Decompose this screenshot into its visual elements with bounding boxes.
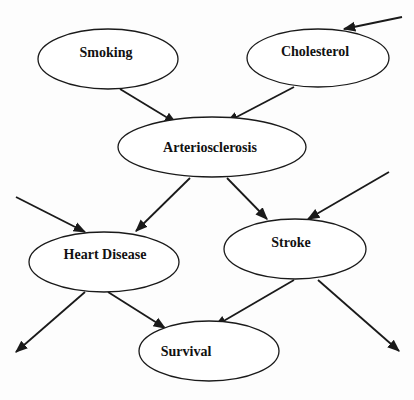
node-survival: Survival	[139, 321, 279, 381]
bayesian-network-diagram: Smoking Cholesterol Arteriosclerosis Hea…	[0, 0, 414, 400]
edge-cholesterol-to-arteriosclerosis	[227, 87, 294, 122]
node-smoking-label: Smoking	[80, 45, 133, 60]
node-arteriosclerosis: Arteriosclerosis	[118, 117, 306, 177]
edge-heart-disease-to-external	[16, 292, 85, 352]
node-smoking: Smoking	[38, 29, 178, 89]
edge-heart-disease-to-survival	[108, 292, 165, 328]
edge-external-to-stroke	[308, 172, 389, 219]
edge-stroke-to-external	[318, 280, 399, 351]
node-cholesterol-label: Cholesterol	[281, 44, 349, 59]
edge-stroke-to-survival	[215, 280, 294, 326]
edge-external-to-heart-disease	[16, 197, 85, 232]
node-stroke: Stroke	[224, 219, 366, 279]
node-heart-disease: Heart Disease	[29, 232, 179, 292]
edge-smoking-to-arteriosclerosis	[120, 89, 176, 123]
node-survival-label: Survival	[161, 344, 212, 359]
diagram-canvas: Smoking Cholesterol Arteriosclerosis Hea…	[0, 0, 414, 400]
edge-arteriosclerosis-to-stroke	[227, 178, 267, 219]
node-stroke-label: Stroke	[271, 235, 310, 250]
node-arteriosclerosis-label: Arteriosclerosis	[163, 140, 257, 155]
node-cholesterol: Cholesterol	[247, 29, 389, 87]
node-heart-disease-shape	[29, 232, 179, 292]
edge-external-to-cholesterol	[344, 17, 402, 29]
node-heart-disease-label: Heart Disease	[64, 247, 147, 262]
edge-arteriosclerosis-to-heart-disease	[136, 178, 190, 231]
